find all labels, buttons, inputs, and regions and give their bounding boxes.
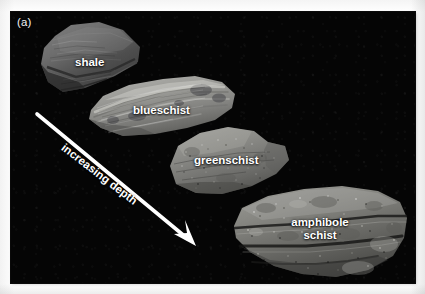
specimen-label-greenschist: greenschist — [194, 154, 259, 167]
figure-root: shale — [0, 0, 425, 294]
photograph-panel: shale — [11, 12, 415, 283]
amphibole-label-line-1: amphibole — [284, 216, 356, 229]
specimen-label-amphibole-schist: amphibole schist — [284, 216, 356, 242]
amphibole-label-line-2: schist — [284, 229, 356, 242]
specimen-label-blueschist: blueschist — [133, 104, 190, 117]
specimen-label-shale: shale — [75, 56, 104, 69]
increasing-depth-label: increasing depth — [59, 141, 139, 207]
panel-letter-label: (a) — [17, 16, 31, 28]
